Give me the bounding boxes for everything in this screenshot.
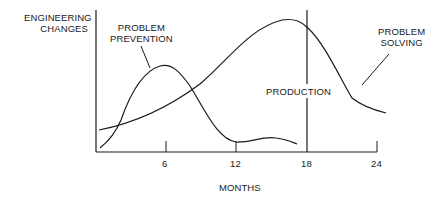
tick-label-12: 12 [230, 158, 241, 169]
production-label: PRODUCTION [266, 86, 331, 97]
problem-prevention-curve [100, 65, 297, 148]
prevention-label-line1: PROBLEM [110, 22, 173, 33]
prevention-label-line2: PREVENTION [110, 33, 173, 44]
y-axis-label-line2: CHANGES [24, 23, 88, 34]
tick-label-24: 24 [371, 158, 382, 169]
solving-label: PROBLEM SOLVING [378, 26, 425, 48]
solving-leader-line [362, 54, 389, 85]
prevention-leader-line [141, 46, 150, 68]
solving-label-line2: SOLVING [378, 37, 425, 48]
y-axis-label: ENGINEERING CHANGES [24, 12, 88, 34]
x-axis-label: MONTHS [219, 182, 261, 193]
tick-label-6: 6 [162, 158, 167, 169]
tick-label-18: 18 [301, 158, 312, 169]
prevention-label: PROBLEM PREVENTION [110, 22, 173, 44]
y-axis-label-line1: ENGINEERING [24, 12, 88, 23]
solving-label-line1: PROBLEM [378, 26, 425, 37]
